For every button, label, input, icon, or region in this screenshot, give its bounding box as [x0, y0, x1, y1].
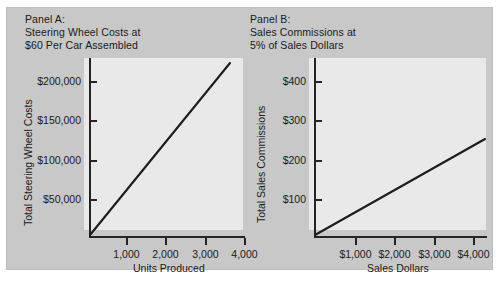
- panel-a-data-line: [7, 8, 250, 271]
- panel-a: Panel A: Steering Wheel Costs at $60 Per…: [7, 8, 250, 269]
- panel-b: Panel B: Sales Commissions at 5% of Sale…: [241, 8, 494, 269]
- figure-frame: Panel A: Steering Wheel Costs at $60 Per…: [6, 7, 493, 270]
- panel-b-data-line: [241, 8, 494, 271]
